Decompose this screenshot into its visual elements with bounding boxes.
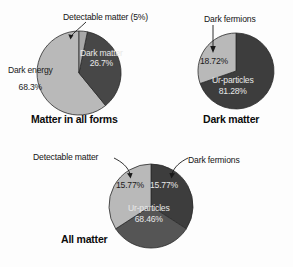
- figure-canvas: Detectable matter (5%) Dark energy 68.3%…: [0, 0, 293, 267]
- slice-label-detectable-matter-pie3: 15.77%: [116, 181, 144, 190]
- callout-dark-fermions-pie3: Dark fermions: [188, 155, 240, 165]
- callout-detectable-matter-pie3: Detectable matter: [33, 152, 98, 162]
- slice-label-ur-particles-name: Ur-particles: [212, 76, 254, 85]
- slice-label-dark-energy-name: Dark energy: [8, 66, 53, 75]
- leader-arrow-dark-fermions-pie2: [205, 24, 229, 56]
- slice-label-ur-particles-name-pie3: Ur-particles: [128, 204, 170, 213]
- slice-label-dark-matter: Dark matter 26.7%: [80, 49, 123, 68]
- leader-path: [71, 22, 87, 37]
- slice-label-dark-energy: Dark energy 68.3%: [8, 66, 53, 92]
- callout-dark-fermions-pie2: Dark fermions: [204, 14, 256, 24]
- slice-label-dark-fermions-pie3: 15.77%: [150, 181, 178, 190]
- callout-detectable-matter-pie1: Detectable matter (5%): [63, 12, 148, 22]
- slice-value-detectable-matter: 15.77%: [116, 181, 144, 190]
- slice-label-dark-fermions: 18.72%: [200, 57, 228, 66]
- slice-value-ur-particles: 81.28%: [212, 87, 254, 96]
- slice-label-dark-matter-name: Dark matter: [80, 49, 123, 58]
- leader-path: [114, 158, 130, 174]
- chart-title-all-matter: All matter: [61, 233, 107, 245]
- slice-value-dark-fermions: 18.72%: [200, 57, 228, 66]
- chart-title-matter-in-all-forms: Matter in all forms: [31, 113, 118, 125]
- leader-arrowhead: [210, 46, 216, 53]
- leader-arrowhead: [127, 173, 133, 179]
- slice-label-ur-particles-pie2: Ur-particles 81.28%: [212, 76, 254, 96]
- slice-value-dark-energy: 68.3%: [8, 83, 53, 92]
- leader-line-detectable-pie1: [60, 20, 90, 42]
- slice-value-ur-particles-pie3: 68.46%: [128, 215, 170, 224]
- slice-label-ur-particles-pie3: Ur-particles 68.46%: [128, 204, 170, 224]
- leader-path: [172, 158, 188, 174]
- leader-arrow-dark-fermions-pie3: [160, 158, 190, 182]
- slice-value-dark-matter: 26.7%: [80, 59, 123, 68]
- leader-arrowhead: [169, 173, 175, 179]
- slice-value-dark-fermions-pie3: 15.77%: [150, 181, 178, 190]
- leader-arrow-detectable-pie3: [116, 158, 142, 182]
- chart-title-dark-matter: Dark matter: [203, 113, 259, 125]
